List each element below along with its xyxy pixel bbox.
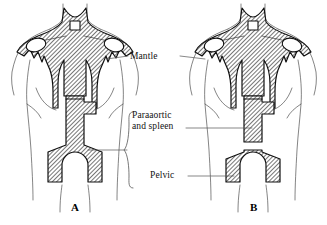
label-paraaortic-line2: and spleen [132,121,173,132]
panel-b-pelvic-field [226,150,280,182]
panel-label-a: A [71,201,79,213]
panel-label-b: B [250,201,257,213]
label-mantle: Mantle [130,51,158,62]
panel-a-paraaortic-pelvic-field [48,96,102,182]
leader-mantle-b [180,56,205,59]
panel-b-paraaortic-field [244,96,274,142]
label-pelvic: Pelvic [150,170,174,181]
diagram-canvas: Mantle Paraaortic and spleen Pelvic A B [0,0,327,225]
label-paraaortic-line1: Paraaortic [132,110,173,121]
panel-b-mantle-field [195,8,311,108]
label-paraaortic-and-spleen: Paraaortic and spleen [132,110,173,132]
